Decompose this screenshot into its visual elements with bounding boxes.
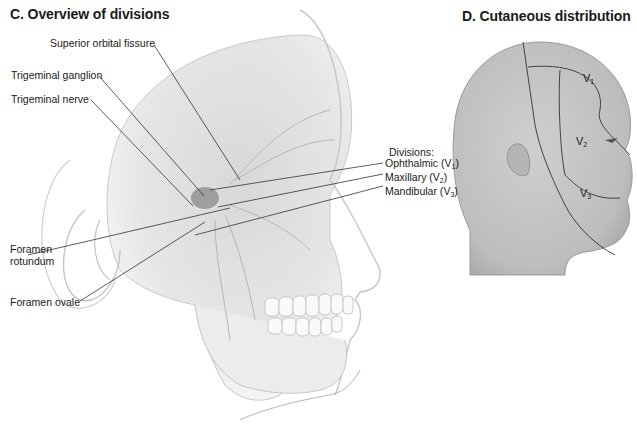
- label-foramen-ovale: Foramen ovale: [10, 296, 80, 308]
- label-trigeminal-nerve: Trigeminal nerve: [11, 93, 89, 105]
- label-superior-orbital-fissure: Superior orbital fissure: [50, 37, 155, 49]
- division-maxillary: Maxillary (V2): [385, 172, 459, 186]
- panel-d-title: D. Cutaneous distribution: [462, 8, 631, 24]
- zone-v1: V1: [583, 72, 594, 85]
- skull-illustration: [0, 0, 637, 444]
- zone-v2: V2: [576, 135, 587, 148]
- panel-c-title: C. Overview of divisions: [10, 6, 169, 22]
- division-mandibular: Mandibular (V3): [385, 186, 459, 200]
- division-ophthalmic: Ophthalmic (V1): [385, 158, 459, 172]
- label-trigeminal-ganglion: Trigeminal ganglion: [11, 69, 102, 81]
- zone-v3: V3: [580, 187, 591, 200]
- head-illustration: [453, 42, 632, 275]
- label-foramen-rotundum: Foramen rotundum: [10, 243, 54, 267]
- label-foramen-rotundum-line1: Foramen: [10, 243, 54, 255]
- divisions-legend: Divisions: Ophthalmic (V1) Maxillary (V2…: [385, 147, 459, 200]
- trigeminal-ganglion-shape: [191, 187, 219, 209]
- label-foramen-rotundum-line2: rotundum: [10, 255, 54, 267]
